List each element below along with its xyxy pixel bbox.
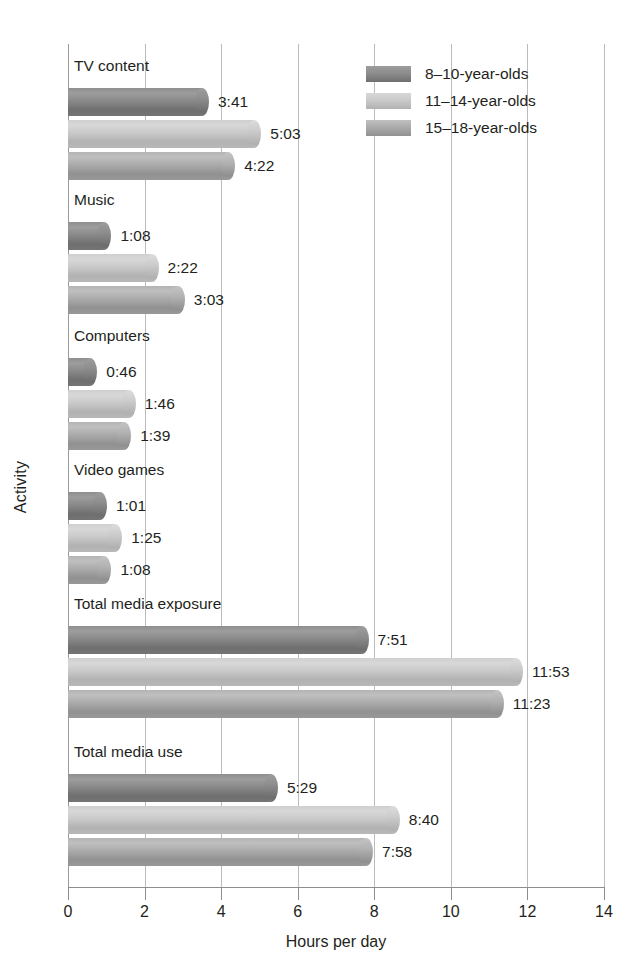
bar-end-cap: [490, 690, 504, 718]
bar[interactable]: [68, 358, 97, 386]
x-tick: [298, 887, 299, 900]
bar-value-label: 11:53: [523, 664, 570, 680]
bar[interactable]: [68, 390, 136, 418]
legend-item[interactable]: 8–10-year-olds: [366, 60, 596, 87]
category-label: Computers: [74, 328, 150, 344]
bar-end-cap: [145, 254, 159, 282]
x-tick-label: 2: [140, 903, 149, 921]
x-tick-label: 12: [519, 903, 537, 921]
bar[interactable]: [68, 774, 278, 802]
category-label: TV content: [74, 58, 149, 74]
bar[interactable]: [68, 838, 373, 866]
x-axis: 02468101214 Hours per day: [68, 887, 604, 947]
legend-label: 8–10-year-olds: [425, 65, 528, 83]
legend-label: 15–18-year-olds: [425, 119, 537, 137]
bar-row: 11:53: [68, 658, 604, 686]
legend-swatch: [366, 93, 411, 109]
bar-body: [68, 690, 497, 718]
bar-row: 1:01: [68, 492, 604, 520]
bar-value-label: 3:03: [185, 292, 224, 308]
bar[interactable]: [68, 658, 523, 686]
legend-swatch: [366, 120, 411, 136]
legend: 8–10-year-olds11–14-year-olds15–18-year-…: [366, 60, 596, 141]
bar-end-cap: [386, 806, 400, 834]
bar-end-cap: [117, 422, 131, 450]
bar-value-label: 7:58: [373, 844, 412, 860]
bar[interactable]: [68, 222, 111, 250]
category-label: Video games: [74, 462, 164, 478]
bar-row: 0:46: [68, 358, 604, 386]
bar[interactable]: [68, 524, 122, 552]
legend-item[interactable]: 11–14-year-olds: [366, 87, 596, 114]
bar-end-cap: [221, 152, 235, 180]
bar[interactable]: [68, 88, 209, 116]
bar[interactable]: [68, 120, 261, 148]
bar-row: 1:46: [68, 390, 604, 418]
bar[interactable]: [68, 254, 159, 282]
bar-group: Total media use5:298:407:58: [68, 744, 604, 870]
bar-value-label: 1:39: [131, 428, 170, 444]
legend-swatch: [366, 66, 411, 82]
bar[interactable]: [68, 626, 369, 654]
bar-value-label: 0:46: [97, 364, 136, 380]
x-tick: [221, 887, 222, 900]
bar[interactable]: [68, 690, 504, 718]
bar-body: [68, 152, 228, 180]
bar-body: [68, 422, 124, 450]
bar-end-cap: [355, 626, 369, 654]
x-tick-label: 8: [370, 903, 379, 921]
bar[interactable]: [68, 422, 131, 450]
bar[interactable]: [68, 806, 400, 834]
bar-value-label: 1:46: [136, 396, 175, 412]
legend-label: 11–14-year-olds: [425, 92, 536, 110]
bar[interactable]: [68, 286, 185, 314]
bar-end-cap: [97, 556, 111, 584]
bar-end-cap: [93, 492, 107, 520]
bar-row: 1:25: [68, 524, 604, 552]
bar-end-cap: [122, 390, 136, 418]
bar-chart: Activity TV content3:415:034:22Music1:08…: [0, 0, 640, 973]
legend-item[interactable]: 15–18-year-olds: [366, 114, 596, 141]
bar-value-label: 11:23: [504, 696, 551, 712]
bar-body: [68, 658, 516, 686]
x-tick: [604, 887, 605, 900]
bar-end-cap: [509, 658, 523, 686]
bar-value-label: 7:51: [369, 632, 408, 648]
bar-row: 1:39: [68, 422, 604, 450]
bar[interactable]: [68, 556, 111, 584]
bar-end-cap: [97, 222, 111, 250]
x-tick-label: 6: [293, 903, 302, 921]
x-tick: [145, 887, 146, 900]
bar-value-label: 1:08: [111, 228, 150, 244]
bar-end-cap: [108, 524, 122, 552]
x-tick: [374, 887, 375, 900]
bar[interactable]: [68, 152, 235, 180]
bar-row: 8:40: [68, 806, 604, 834]
y-axis-title: Activity: [4, 0, 38, 973]
bar-row: 7:51: [68, 626, 604, 654]
bar-row: 5:29: [68, 774, 604, 802]
bar-end-cap: [247, 120, 261, 148]
bar-end-cap: [264, 774, 278, 802]
bar-group: Total media exposure7:5111:5311:23: [68, 596, 604, 722]
plot-area: TV content3:415:034:22Music1:082:223:03C…: [68, 44, 604, 887]
bar-group: Video games1:011:251:08: [68, 462, 604, 588]
x-tick: [68, 887, 69, 900]
x-tick: [527, 887, 528, 900]
bar-body: [68, 390, 129, 418]
bar-body: [68, 286, 178, 314]
x-tick: [451, 887, 452, 900]
x-tick-label: 10: [442, 903, 460, 921]
x-tick-label: 0: [64, 903, 73, 921]
bar-body: [68, 806, 393, 834]
bar-row: 7:58: [68, 838, 604, 866]
bar-value-label: 1:01: [107, 498, 146, 514]
bar[interactable]: [68, 492, 107, 520]
bar-value-label: 5:29: [278, 780, 317, 796]
bar-row: 2:22: [68, 254, 604, 282]
x-tick-label: 4: [217, 903, 226, 921]
bar-row: 1:08: [68, 222, 604, 250]
x-tick-label: 14: [595, 903, 613, 921]
bar-body: [68, 120, 254, 148]
bar-value-label: 1:25: [122, 530, 161, 546]
